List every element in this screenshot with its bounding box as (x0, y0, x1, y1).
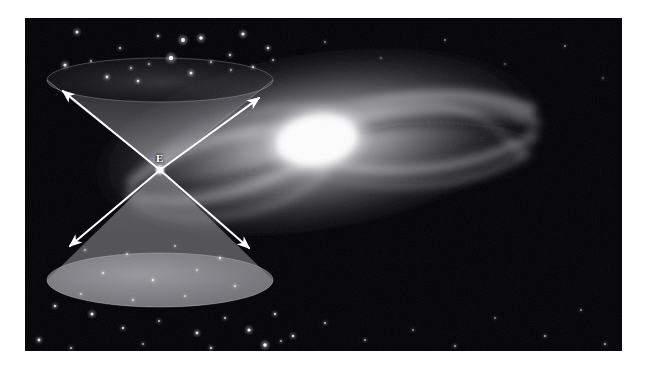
star (604, 343, 606, 345)
star (210, 61, 212, 63)
star (137, 80, 140, 83)
star (70, 347, 72, 349)
star (210, 347, 212, 349)
star (544, 335, 546, 337)
star (263, 343, 267, 347)
star (126, 253, 128, 255)
star (184, 295, 186, 297)
star (158, 320, 160, 322)
star (119, 47, 121, 49)
event-point-marker (156, 166, 164, 174)
star (196, 269, 198, 271)
star (132, 299, 134, 301)
star (602, 77, 604, 79)
star (364, 339, 366, 341)
star (152, 279, 154, 281)
star (80, 293, 82, 295)
star (76, 31, 79, 34)
star (247, 328, 250, 331)
star (292, 335, 295, 338)
star (267, 47, 270, 50)
astronomy-photo-frame: E (25, 18, 622, 351)
star (122, 327, 124, 329)
star (219, 257, 221, 259)
star (199, 36, 203, 40)
star (91, 313, 94, 316)
star (169, 56, 173, 60)
light-cone-galaxy-illustration (25, 18, 622, 351)
star (90, 60, 92, 62)
star (412, 329, 414, 331)
star (234, 285, 236, 287)
star (324, 41, 326, 43)
star (196, 332, 199, 335)
star (230, 69, 232, 71)
star (444, 39, 446, 41)
star (580, 309, 582, 311)
star (274, 313, 276, 315)
star (38, 339, 41, 342)
star (241, 32, 244, 35)
star (148, 63, 150, 65)
star (224, 317, 226, 319)
star (106, 76, 109, 79)
star (229, 54, 231, 56)
star (130, 67, 132, 69)
star (380, 57, 382, 59)
photo-grain (25, 18, 622, 351)
star (252, 66, 254, 68)
star (564, 45, 566, 47)
star (272, 59, 274, 61)
star (324, 322, 326, 324)
star (454, 345, 456, 347)
star (142, 343, 144, 345)
star (181, 38, 185, 42)
star (157, 35, 159, 37)
star (102, 272, 104, 274)
star (174, 245, 176, 247)
star (84, 249, 86, 251)
figure-root: E (0, 0, 648, 370)
star (504, 63, 506, 65)
star (54, 305, 57, 308)
star (280, 340, 282, 342)
star (494, 317, 496, 319)
star (190, 72, 193, 75)
star (63, 63, 66, 66)
